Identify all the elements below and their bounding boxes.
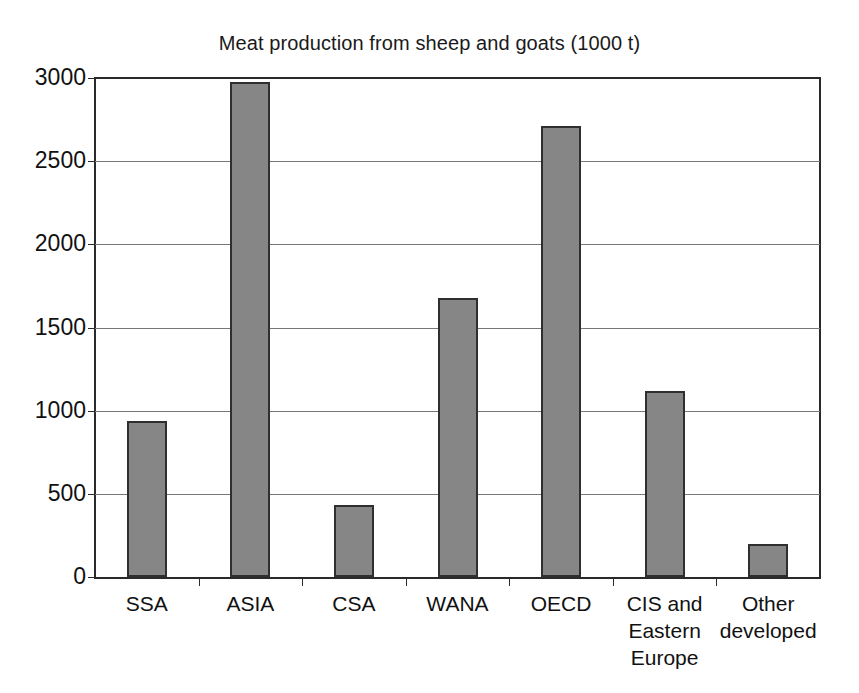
x-tick-label-line: Europe: [601, 644, 729, 671]
bar: [541, 126, 581, 577]
x-tick-mark: [509, 577, 510, 586]
x-tick-mark: [406, 577, 407, 586]
y-axis: 050010001500200025003000: [0, 78, 86, 577]
bar: [230, 82, 270, 577]
x-tick-mark: [613, 577, 614, 586]
bar: [334, 505, 374, 577]
x-tick-mark: [716, 577, 717, 586]
x-tick-label: Otherdeveloped: [704, 590, 832, 644]
x-axis-labels: SSAASIACSAWANAOECDCIS andEasternEuropeOt…: [95, 590, 820, 690]
y-tick-label: 1000: [6, 399, 86, 422]
y-tick-mark: [88, 161, 95, 162]
x-tick-label-line: Other: [704, 590, 832, 617]
chart-figure: Meat production from sheep and goats (10…: [0, 0, 859, 693]
y-tick-label: 3000: [6, 66, 86, 89]
y-tick-mark: [88, 411, 95, 412]
y-tick-mark: [88, 494, 95, 495]
gridline: [95, 244, 820, 245]
plot-border-top: [94, 77, 821, 79]
y-tick-mark: [88, 577, 95, 578]
cropped-caption-text: [90, 684, 790, 693]
x-tick-label-line: developed: [704, 617, 832, 644]
bar: [645, 391, 685, 577]
x-axis-line: [94, 577, 821, 579]
x-tick-mark: [199, 577, 200, 586]
y-tick-label: 2000: [6, 232, 86, 255]
chart-title: Meat production from sheep and goats (10…: [0, 32, 859, 55]
y-tick-mark: [88, 244, 95, 245]
bar: [127, 421, 167, 577]
y-tick-label: 1500: [6, 316, 86, 339]
gridline: [95, 161, 820, 162]
y-tick-mark: [88, 328, 95, 329]
y-tick-label: 0: [6, 565, 86, 588]
y-tick-label: 2500: [6, 149, 86, 172]
y-tick-mark: [88, 78, 95, 79]
bar: [438, 298, 478, 577]
y-tick-label: 500: [6, 482, 86, 505]
x-tick-mark: [302, 577, 303, 586]
plot-area: [95, 78, 820, 577]
bar: [748, 544, 788, 577]
